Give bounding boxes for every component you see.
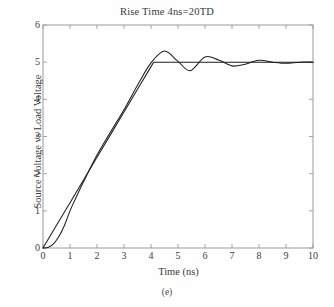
figure-panel: Rise Time 4ns=20TD Source Voltage vs Loa…	[0, 0, 334, 307]
x-tick-label-2: 2	[86, 251, 108, 261]
x-tick-label-10: 10	[302, 251, 324, 261]
x-tick-label-4: 4	[140, 251, 162, 261]
x-tick-label-3: 3	[113, 251, 135, 261]
x-tick-label-6: 6	[194, 251, 216, 261]
series-line-0	[43, 62, 313, 248]
axis-tick-marks	[43, 25, 313, 248]
data-curves	[43, 51, 313, 248]
x-tick-label-0: 0	[32, 251, 54, 261]
x-tick-label-8: 8	[248, 251, 270, 261]
figure-caption: (e)	[0, 287, 334, 297]
x-tick-label-5: 5	[167, 251, 189, 261]
x-axis-tick-labels: 0 1 2 3 4 5 6 7 8 9 10	[0, 251, 334, 267]
axis-frame	[43, 25, 313, 248]
x-tick-label-7: 7	[221, 251, 243, 261]
series-line-1	[43, 51, 313, 248]
plot-area	[43, 25, 313, 248]
x-tick-label-9: 9	[275, 251, 297, 261]
x-axis-title: Time (ns)	[43, 266, 314, 277]
x-tick-label-1: 1	[59, 251, 81, 261]
